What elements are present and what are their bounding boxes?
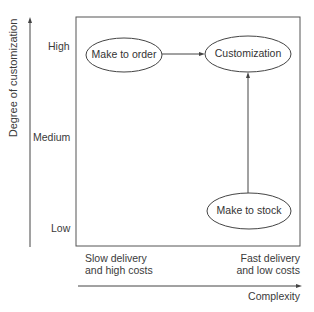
y-tick-medium: Medium — [33, 131, 70, 143]
x-right-label: Fast delivery and low costs — [228, 252, 300, 276]
x-left-label: Slow delivery and high costs — [85, 252, 153, 276]
node-make-to-stock: Make to stock — [207, 204, 291, 216]
arrowhead-icon — [246, 72, 250, 78]
x-axis-title: Complexity — [230, 290, 300, 302]
x-axis-arrowhead-icon — [296, 284, 302, 288]
y-tick-high: High — [48, 40, 70, 52]
node-customization: Customization — [205, 47, 291, 59]
y-tick-low: Low — [51, 222, 70, 234]
y-axis-title: Degree of customization — [7, 13, 19, 143]
y-axis-arrowhead-icon — [28, 17, 32, 23]
node-make-to-order: Make to order — [86, 48, 162, 60]
